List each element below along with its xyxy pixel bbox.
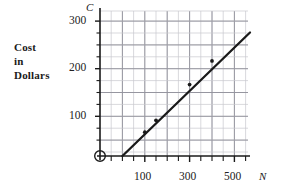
y-axis-caption-line-1: Cost (14, 40, 50, 54)
y-tick-label-300: 300 (69, 14, 86, 26)
y-tick-label-200: 200 (69, 61, 86, 73)
x-tick-label-100: 100 (134, 170, 151, 182)
x-axis-symbol-label: N (259, 170, 266, 182)
y-tick-label-100: 100 (69, 109, 86, 121)
data-point-400-200 (210, 59, 214, 63)
x-axis (97, 156, 250, 162)
x-tick-label-300: 300 (179, 170, 196, 182)
data-point-100-50 (143, 130, 147, 134)
y-axis (95, 8, 100, 160)
y-axis-caption: Cost in Dollars (14, 40, 50, 82)
cost-trend-line (122, 33, 250, 157)
plot-area (0, 0, 284, 196)
data-point-150-75 (154, 118, 158, 122)
y-axis-caption-line-2: in (14, 54, 50, 68)
x-tick-label-500: 500 (224, 170, 241, 182)
y-axis-caption-line-3: Dollars (14, 68, 50, 82)
y-axis-symbol-label: C (86, 1, 93, 13)
cost-vs-n-chart: Cost in Dollars C N 300 200 100 100 300 … (0, 0, 284, 196)
data-point-300-150 (188, 83, 192, 87)
